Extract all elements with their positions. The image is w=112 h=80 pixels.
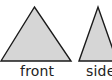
- side-triangle: [79, 7, 112, 61]
- front-triangle: [1, 7, 71, 61]
- front-label: front: [20, 64, 54, 78]
- side-label: side: [86, 64, 112, 78]
